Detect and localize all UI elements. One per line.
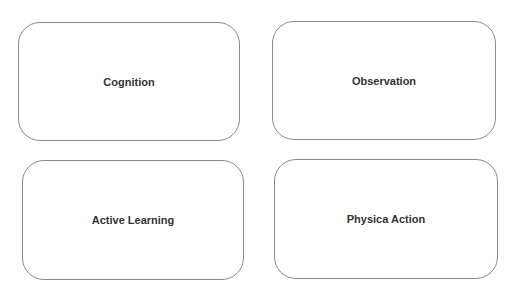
- observation-box: Observation: [272, 21, 496, 140]
- observation-label: Observation: [352, 75, 416, 87]
- cognition-box: Cognition: [18, 22, 240, 141]
- active-learning-box: Active Learning: [22, 160, 244, 280]
- physical-action-label: Physica Action: [347, 213, 425, 225]
- cognition-label: Cognition: [103, 76, 154, 88]
- physical-action-box: Physica Action: [274, 159, 498, 279]
- active-learning-label: Active Learning: [92, 214, 175, 226]
